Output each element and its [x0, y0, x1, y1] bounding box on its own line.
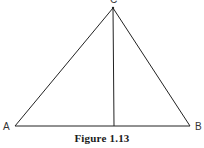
- triangle-diagram: A B C: [0, 0, 204, 148]
- vertex-label-a: A: [3, 121, 10, 132]
- altitude-line: [113, 8, 114, 126]
- apex-point: [112, 7, 114, 9]
- side-bc: [113, 8, 190, 126]
- vertex-label-b: B: [195, 121, 202, 132]
- vertex-label-c: C: [110, 0, 117, 5]
- side-ac: [15, 8, 113, 126]
- figure-caption: Figure 1.13: [0, 132, 204, 144]
- triangle-shapes: [15, 7, 190, 126]
